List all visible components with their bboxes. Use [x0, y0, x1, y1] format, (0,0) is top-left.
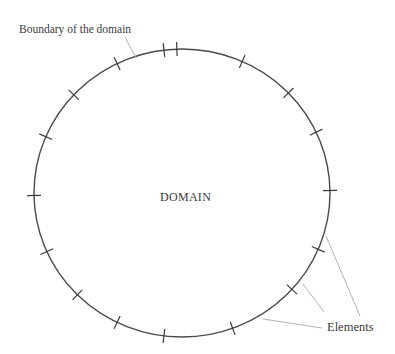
elements-leader-line — [326, 236, 360, 316]
element-node-tick — [312, 247, 325, 253]
element-node-tick — [114, 57, 120, 70]
elements-label: Elements — [327, 320, 374, 334]
elements-leader-line — [303, 284, 324, 312]
element-node-tick — [114, 316, 120, 329]
element-node-tick — [310, 129, 323, 135]
element-node-tick — [177, 42, 178, 56]
element-node-tick — [163, 43, 165, 57]
element-node-tick — [163, 329, 165, 343]
domain-label: DOMAIN — [160, 190, 211, 204]
elements-leader-lines — [263, 236, 360, 328]
element-node-tick — [39, 134, 52, 140]
boundary-leader-line — [125, 37, 136, 58]
boundary-label: Boundary of the domain — [19, 23, 131, 36]
element-node-tick — [239, 55, 245, 68]
elements-leader-line — [263, 319, 322, 328]
domain-diagram: Boundary of the domain DOMAIN Elements — [0, 0, 395, 354]
element-node-tick — [40, 249, 53, 255]
